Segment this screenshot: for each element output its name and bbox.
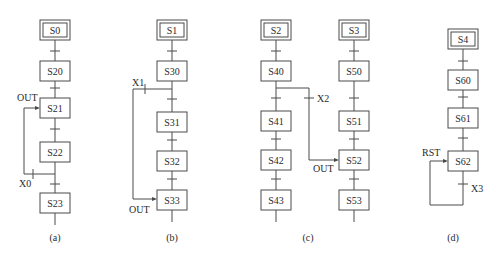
annotation-out: OUT: [313, 163, 334, 174]
caption-a: (a): [49, 232, 60, 244]
step-label: S52: [346, 155, 362, 166]
diagram-a: S0 S20 S21 S22 S23 OUT X0 (a): [17, 20, 70, 244]
arrow-head-icon: [443, 159, 448, 163]
diagram-d: S4 S60 S61 S62 RST X3 (d): [422, 29, 483, 244]
caption-c: (c): [302, 232, 313, 244]
annotation-x3: X3: [471, 183, 483, 194]
step-label: S21: [47, 103, 63, 114]
arrow-head-icon: [152, 197, 157, 201]
step-label: S40: [268, 66, 284, 77]
step-label: S53: [346, 195, 362, 206]
step-label: S20: [47, 66, 63, 77]
step-label: S60: [455, 75, 471, 86]
annotation-out: OUT: [129, 204, 150, 215]
step-label: S32: [164, 156, 180, 167]
caption-d: (d): [447, 232, 459, 244]
diagram-b: S1 S30 S31 S32 S33 X1 OUT (b): [129, 20, 187, 244]
step-label: S50: [346, 66, 362, 77]
step-label: S23: [47, 198, 63, 209]
step-label: S61: [455, 113, 471, 124]
step-label: S0: [50, 25, 61, 36]
annotation-out: OUT: [17, 92, 38, 103]
step-label: S42: [268, 155, 284, 166]
annotation-x0: X0: [19, 178, 31, 189]
jump-line-x1: [133, 89, 172, 199]
step-label: S22: [47, 147, 63, 158]
caption-b: (b): [166, 232, 178, 244]
step-label: S1: [167, 25, 178, 36]
step-label: S51: [346, 116, 362, 127]
annotation-x1: X1: [132, 77, 144, 88]
sfc-diagram-figure: S0 S20 S21 S22 S23 OUT X0 (a) S1 S30 S31: [0, 0, 496, 263]
diagram-c: S2 S40 S41 S42 S43 S3 S50 S51 S52 S53: [261, 20, 369, 244]
step-label: S30: [164, 66, 180, 77]
step-label: S3: [349, 25, 360, 36]
step-label: S43: [268, 195, 284, 206]
step-label: S41: [268, 116, 284, 127]
step-label: S31: [164, 117, 180, 128]
annotation-rst: RST: [422, 147, 440, 158]
arrow-head-icon: [35, 106, 40, 110]
annotation-x2: X2: [317, 93, 329, 104]
step-label: S4: [458, 34, 469, 45]
step-label: S2: [271, 25, 282, 36]
step-label: S33: [164, 195, 180, 206]
step-label: S62: [455, 156, 471, 167]
arrow-head-icon: [334, 158, 339, 162]
